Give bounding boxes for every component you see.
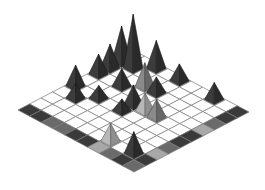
isometric-board[interactable] — [0, 0, 265, 190]
pyramid-left-face[interactable] — [147, 41, 157, 74]
pyramid-piece[interactable] — [147, 41, 167, 74]
pyramid-right-face[interactable] — [156, 41, 166, 74]
game-stage: Isometric game board 10 by 10 isometric … — [0, 0, 265, 190]
pyramid-right-face[interactable] — [133, 14, 143, 73]
